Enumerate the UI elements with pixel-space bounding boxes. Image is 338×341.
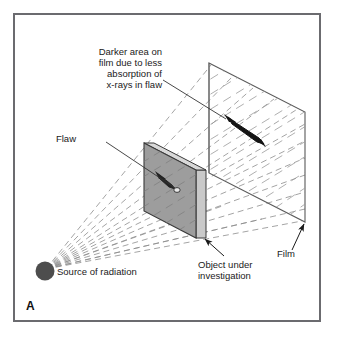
radiography-figure: Darker area on film due to less absorpti…: [0, 0, 338, 341]
object-label-line-2: investigation: [198, 270, 251, 281]
source-of-radiation-label: Source of radiation: [57, 266, 137, 277]
source-of-radiation-dot: [36, 262, 55, 281]
object-slab: [130, 118, 215, 260]
object-leader-arrow: [205, 239, 224, 256]
film-label: Film: [277, 248, 295, 259]
darker-area-label-line-4: x-rays in flaw: [107, 79, 163, 90]
darker-area-label-line-1: Darker area on: [99, 46, 162, 57]
flaw-label: Flaw: [56, 133, 76, 144]
radiography-diagram: Darker area on film due to less absorpti…: [0, 0, 338, 341]
darker-area-label-line-2: film due to less: [99, 57, 163, 68]
object-label-line-1: Object under: [198, 259, 252, 270]
film-plane: [185, 35, 329, 284]
object-under-investigation-label: Object under investigation: [198, 259, 252, 281]
darker-area-label: Darker area on film due to less absorpti…: [99, 46, 163, 90]
film-leader-arrow: [292, 224, 304, 250]
darker-area-label-line-3: absorption of: [107, 68, 162, 79]
panel-letter: A: [26, 299, 35, 313]
